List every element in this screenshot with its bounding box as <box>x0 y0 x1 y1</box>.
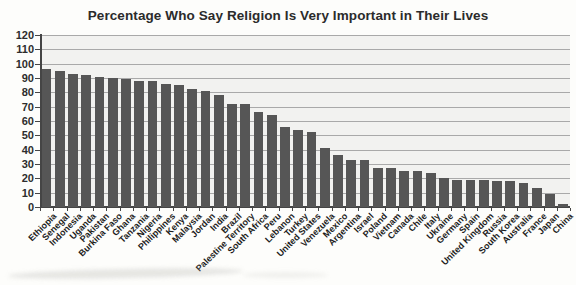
gridline-10 <box>40 193 570 194</box>
scan-smudge-artifact <box>8 267 243 281</box>
bar-france <box>532 188 542 207</box>
gridline-100 <box>40 64 570 65</box>
x-tick <box>332 208 333 211</box>
x-tick <box>265 208 266 211</box>
bar-senegal <box>55 71 65 207</box>
y-axis-label-110: 110 <box>7 43 34 55</box>
bar-brazil <box>227 104 237 207</box>
x-tick <box>345 208 346 211</box>
x-tick <box>491 208 492 211</box>
bar-united-states <box>307 132 317 207</box>
chart-title: Percentage Who Say Religion Is Very Impo… <box>0 8 576 23</box>
bar-kenya <box>174 85 184 207</box>
bar-burkina-faso <box>108 78 118 207</box>
x-tick <box>80 208 81 211</box>
gridline-60 <box>40 121 570 122</box>
bar-argentina <box>346 160 356 207</box>
bar-ghana <box>121 79 131 207</box>
bar-palestine-territory <box>240 104 250 207</box>
gridline-110 <box>40 49 570 50</box>
gridline-30 <box>40 164 570 165</box>
y-axis-label-70: 70 <box>7 101 34 113</box>
bar-russia <box>492 181 502 207</box>
bar-ethiopia <box>42 69 52 207</box>
bar-germany <box>452 180 462 207</box>
gridline-80 <box>40 92 570 93</box>
bar-china <box>558 204 568 207</box>
x-tick <box>544 208 545 211</box>
x-tick <box>411 208 412 211</box>
bar-south-africa <box>254 112 264 207</box>
bar-poland <box>373 168 383 207</box>
x-tick <box>292 208 293 211</box>
x-tick <box>120 208 121 211</box>
x-tick <box>212 208 213 211</box>
gridline-20 <box>40 178 570 179</box>
x-tick <box>557 208 558 211</box>
bar-india <box>214 95 224 207</box>
bar-peru <box>267 115 277 207</box>
y-axis-label-50: 50 <box>7 129 34 141</box>
y-axis-label-120: 120 <box>7 29 34 41</box>
y-axis-label-30: 30 <box>7 158 34 170</box>
x-tick <box>53 208 54 211</box>
scan-smudge-artifact <box>243 272 328 278</box>
x-tick <box>318 208 319 211</box>
y-axis-label-40: 40 <box>7 144 34 156</box>
gridline-120 <box>40 35 570 36</box>
x-tick <box>239 208 240 211</box>
x-tick <box>226 208 227 211</box>
x-tick <box>517 208 518 211</box>
y-axis-label-80: 80 <box>7 86 34 98</box>
bar-vietnam <box>386 168 396 207</box>
x-tick <box>146 208 147 211</box>
x-tick <box>40 208 41 211</box>
bar-jordan <box>201 91 211 207</box>
x-tick <box>93 208 94 211</box>
x-tick <box>504 208 505 211</box>
x-tick <box>438 208 439 211</box>
bar-italy <box>426 173 436 207</box>
x-tick <box>464 208 465 211</box>
bar-united-kingdom <box>479 180 489 207</box>
x-tick <box>371 208 372 211</box>
y-axis-label-60: 60 <box>7 115 34 127</box>
x-tick <box>530 208 531 211</box>
bar-canada <box>399 171 409 207</box>
bar-chart-figure: Percentage Who Say Religion Is Very Impo… <box>0 0 576 285</box>
bar-mexico <box>333 155 343 207</box>
bar-tanzania <box>134 81 144 207</box>
bar-turkey <box>293 130 303 207</box>
gridline-50 <box>40 135 570 136</box>
x-tick <box>133 208 134 211</box>
bar-israel <box>360 160 370 207</box>
x-tick <box>398 208 399 211</box>
bar-indonesia <box>68 74 78 207</box>
gridline-90 <box>40 78 570 79</box>
x-tick <box>477 208 478 211</box>
bar-venezuela <box>320 148 330 207</box>
y-axis-label-0: 0 <box>7 201 34 213</box>
x-tick <box>199 208 200 211</box>
x-tick <box>186 208 187 211</box>
x-tick <box>279 208 280 211</box>
bar-uganda <box>81 75 91 207</box>
bar-japan <box>545 194 555 207</box>
x-tick <box>451 208 452 211</box>
y-axis-label-100: 100 <box>7 58 34 70</box>
gridline-70 <box>40 107 570 108</box>
bar-lebanon <box>280 127 290 207</box>
bar-ukraine <box>439 178 449 207</box>
bar-nigeria <box>148 81 158 207</box>
y-axis-label-20: 20 <box>7 172 34 184</box>
y-axis-label-90: 90 <box>7 72 34 84</box>
x-tick <box>358 208 359 211</box>
bar-australia <box>519 183 529 207</box>
x-tick <box>106 208 107 211</box>
x-tick <box>159 208 160 211</box>
x-tick <box>252 208 253 211</box>
x-tick <box>424 208 425 211</box>
bar-spain <box>466 180 476 207</box>
gridline-40 <box>40 150 570 151</box>
bar-philippines <box>161 84 171 207</box>
